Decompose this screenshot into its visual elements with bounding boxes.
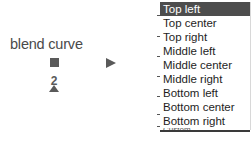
list-item-top-center[interactable]: Top center	[160, 16, 250, 30]
arrow-right-icon[interactable]	[106, 58, 116, 68]
list-item-bottom-center[interactable]: Bottom center	[160, 100, 250, 114]
list-item-middle-left[interactable]: Middle left	[160, 44, 250, 58]
list-item-bottom-left[interactable]: Bottom left	[160, 86, 250, 100]
position-dropdown-list[interactable]: Top left Top center Top right Middle lef…	[160, 2, 251, 130]
list-item-middle-center[interactable]: Middle center	[160, 58, 250, 72]
list-item-bottom-right[interactable]: Bottom right	[160, 114, 250, 128]
node-label: blend curve	[10, 36, 83, 52]
dropdown-bottom-border	[160, 130, 250, 132]
list-item-top-right[interactable]: Top right	[160, 30, 250, 44]
list-item-middle-right[interactable]: Middle right	[160, 72, 250, 86]
number-shape-icon: 2	[47, 74, 61, 92]
square-port-icon[interactable]	[50, 58, 59, 67]
list-item-top-left[interactable]: Top left	[160, 2, 250, 16]
